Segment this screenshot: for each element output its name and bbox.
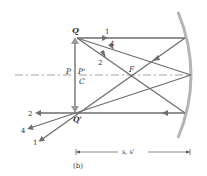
mirror-ray-diagram: Q 1 4 2 P P' C F Q' 2 4 1 s, s' (b) xyxy=(0,0,207,176)
label-Q-prime: Q' xyxy=(73,115,82,124)
label-ray-1-out: 1 xyxy=(33,139,37,147)
ray-1-reflected xyxy=(41,38,185,140)
distance-label: s, s' xyxy=(122,148,135,156)
label-ray-2-out: 2 xyxy=(28,110,32,118)
caption: (b) xyxy=(73,162,83,170)
label-P-prime: P' xyxy=(77,67,85,76)
label-ray-2: 2 xyxy=(98,59,102,67)
label-F: F xyxy=(128,65,135,74)
label-Q: Q xyxy=(72,25,79,35)
label-ray-4-out: 4 xyxy=(21,127,26,135)
ray-4-reflected xyxy=(30,75,191,128)
label-ray-4: 4 xyxy=(110,40,115,48)
label-C: C xyxy=(79,77,85,86)
label-ray-1: 1 xyxy=(105,28,109,36)
label-P: P xyxy=(65,67,72,76)
